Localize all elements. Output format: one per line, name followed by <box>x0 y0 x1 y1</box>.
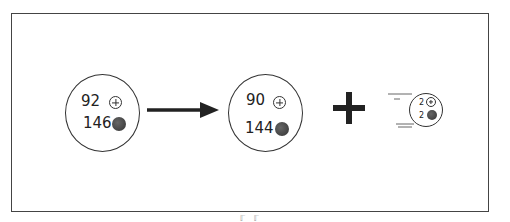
reaction-arrow-icon <box>145 100 220 120</box>
parent-nucleus <box>65 74 140 152</box>
daughter-neutron-count: 144 <box>245 119 274 137</box>
alpha-neutron-count: 2 <box>419 111 424 120</box>
daughter-nucleus <box>228 74 303 152</box>
parent-neutron-count: 146 <box>83 114 112 132</box>
neutron-icon <box>112 117 126 131</box>
proton-icon <box>109 96 122 109</box>
neutron-icon <box>275 122 289 136</box>
proton-icon <box>426 97 436 107</box>
daughter-proton-count: 90 <box>246 91 265 109</box>
caption-fragment: ℾ ℾ <box>240 214 262 222</box>
alpha-proton-count: 2 <box>419 98 424 107</box>
neutron-icon <box>427 110 437 120</box>
parent-proton-count: 92 <box>81 92 100 110</box>
proton-icon <box>273 96 286 109</box>
plus-operator-icon <box>333 91 365 125</box>
